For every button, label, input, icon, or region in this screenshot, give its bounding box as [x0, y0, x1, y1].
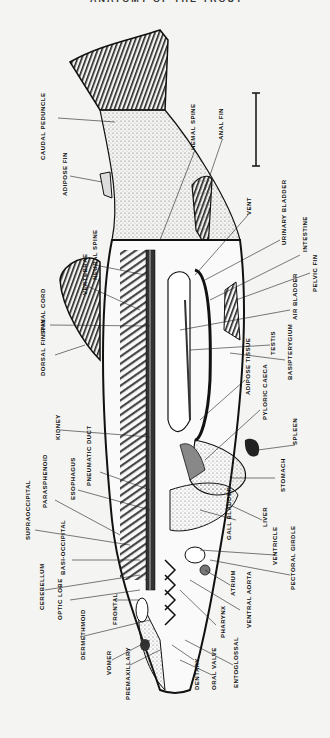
label-pharynx: PHARYNX — [220, 605, 227, 638]
brain — [136, 598, 148, 622]
label-supraoccipital: SUPRAOCCIPITAL — [25, 480, 32, 540]
label-optic-lobe: OPTIC LOBE — [57, 578, 64, 620]
label-premaxillary: PREMAXILLARY — [125, 647, 132, 700]
label-gall-bladder: GALL BLADDER — [226, 487, 233, 540]
label-cerebellum: CEREBELLUM — [39, 563, 46, 610]
label-spleen: SPLEEN — [292, 418, 299, 445]
label-dermethmoid: DERMETHMOID — [80, 609, 87, 660]
label-vomer: VOMER — [106, 650, 113, 675]
label-adipose-tissue: ADIPOSE TISSUE — [245, 338, 252, 395]
label-oral-valve: ORAL VALVE — [211, 647, 218, 690]
label-atrium: ATRIUM — [230, 570, 237, 596]
label-pelvic-fin: PELVIC FIN — [312, 254, 319, 292]
label-ventral-aorta: VENTRAL AORTA — [246, 571, 253, 628]
label-kidney: KIDNEY — [55, 414, 62, 440]
label-liver: LIVER — [262, 507, 269, 527]
label-air-bladder: AIR BLADDER — [292, 273, 299, 320]
scale-bar — [252, 93, 260, 166]
label-ventricle: VENTRICLE — [272, 526, 279, 565]
label-pneumatic-duct: PNEUMATIC DUCT — [86, 425, 93, 486]
label-anal-fin: ANAL FIN — [218, 108, 225, 140]
label-spinal-cord: SPINAL CORD — [40, 288, 47, 335]
label-vertebrae: VERTEBRAE — [82, 253, 89, 295]
label-parasphenoid: PARASPHENOID — [42, 454, 49, 508]
label-esophagus: ESOPHAGUS — [70, 457, 77, 500]
label-frontal: FRONTAL — [112, 593, 119, 625]
label-intestine: INTESTINE — [302, 216, 309, 252]
adipose-fin — [100, 172, 112, 198]
label-basipterygium: BASIPTERYGIUM — [287, 324, 294, 380]
label-stomach: STOMACH — [280, 458, 287, 492]
fish-anatomy-diagram — [0, 0, 330, 738]
label-hemal-spine: HEMAL SPINE — [190, 104, 197, 150]
label-neural-spine: NEURAL SPINE — [92, 229, 99, 280]
label-caudal-peduncle: CAUDAL PEDUNCLE — [40, 93, 47, 160]
ventricle — [185, 547, 205, 563]
label-vent: VENT — [246, 197, 253, 215]
label-basioccipital: BASI-OCCIPITAL — [60, 520, 67, 575]
label-entoglossal: ENTOGLOSSAL — [233, 637, 240, 688]
caudal-fin — [70, 30, 168, 110]
label-dentary: DENTARY — [194, 658, 201, 690]
label-urinary-bladder: URINARY BLADDER — [281, 179, 288, 245]
spleen — [245, 439, 259, 457]
label-testis: TESTIS — [270, 331, 277, 355]
label-pectoral-girdle: PECTORAL GIRDLE — [290, 525, 297, 590]
label-pyloric-caeca: PYLORIC CAECA — [262, 364, 269, 420]
label-adipose-fin: ADIPOSE FIN — [62, 152, 69, 196]
